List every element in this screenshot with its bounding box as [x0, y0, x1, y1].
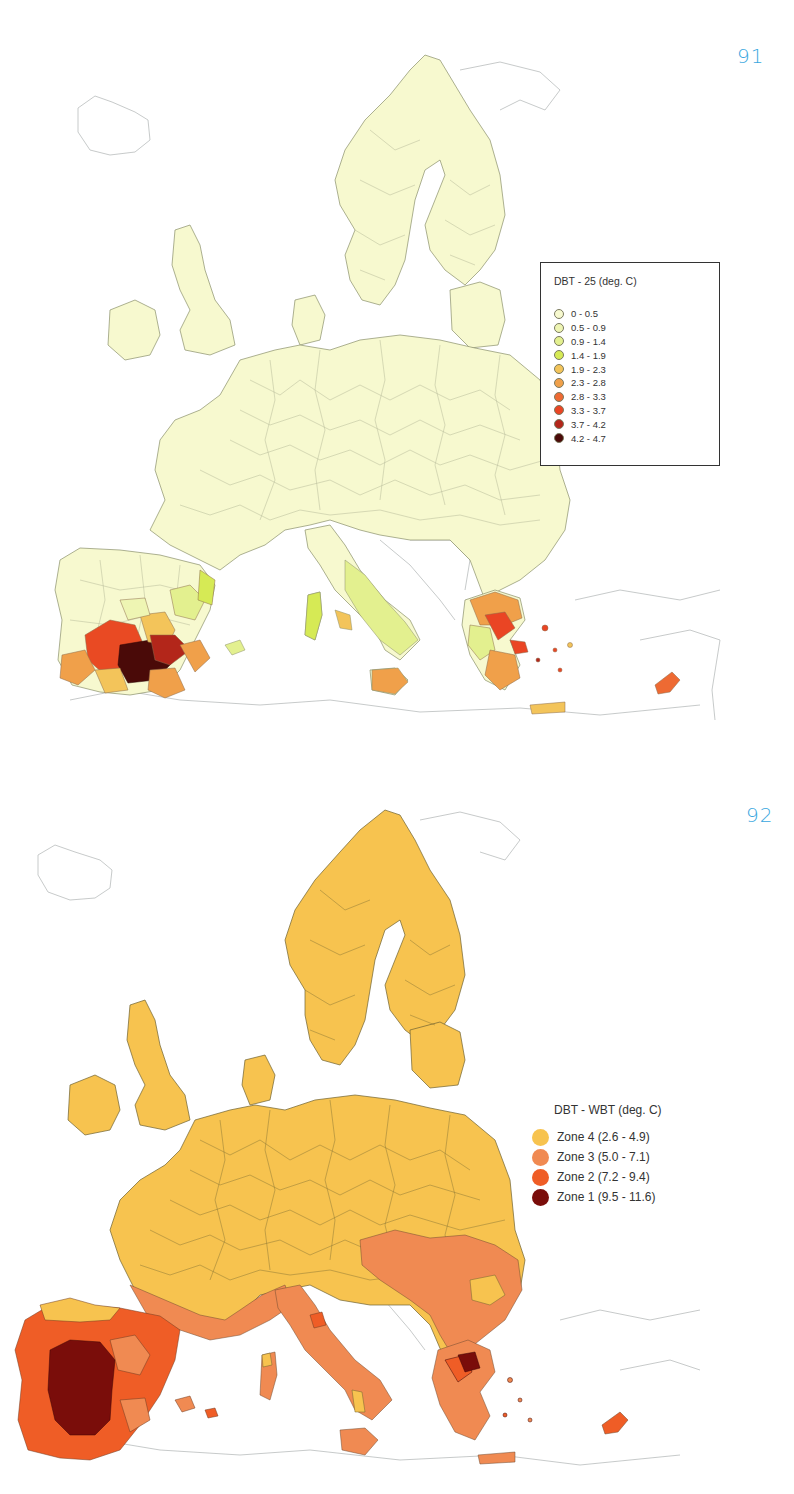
- legend-item: 3.3 - 3.7: [554, 404, 606, 418]
- legend-label: 0.5 - 0.9: [571, 322, 606, 333]
- legend-label: Zone 3 (5.0 - 7.1): [557, 1150, 650, 1164]
- legend-item: 3.7 - 4.2: [554, 417, 606, 431]
- legend-label: 1.4 - 1.9: [571, 350, 606, 361]
- map-dbt-25: DBT - 25 (deg. C) 0 - 0.5 0.5 - 0.9 0.9 …: [0, 0, 794, 740]
- legend-item: 0.9 - 1.4: [554, 335, 606, 349]
- legend-dbt-25: DBT - 25 (deg. C) 0 - 0.5 0.5 - 0.9 0.9 …: [540, 262, 720, 466]
- legend-item: Zone 4 (2.6 - 4.9): [532, 1127, 712, 1147]
- swatch-zone-4: [532, 1129, 549, 1146]
- legend-item: 1.9 - 2.3: [554, 362, 606, 376]
- legend-label: 2.8 - 3.3: [571, 391, 606, 402]
- swatch-8: [554, 419, 564, 429]
- swatch-6: [554, 392, 564, 402]
- map-dbt-wbt: DBT - WBT (deg. C) Zone 4 (2.6 - 4.9) Zo…: [0, 760, 794, 1494]
- swatch-5: [554, 378, 564, 388]
- swatch-1: [554, 323, 564, 333]
- legend-label: 3.7 - 4.2: [571, 419, 606, 430]
- swatch-3: [554, 350, 564, 360]
- legend-label: Zone 1 (9.5 - 11.6): [557, 1190, 656, 1204]
- swatch-zone-1: [532, 1189, 549, 1206]
- swatch-0: [554, 309, 564, 319]
- legend-item: Zone 3 (5.0 - 7.1): [532, 1147, 712, 1167]
- legend-label: 0.9 - 1.4: [571, 336, 606, 347]
- legend-item: 1.4 - 1.9: [554, 348, 606, 362]
- legend-item: Zone 1 (9.5 - 11.6): [532, 1187, 712, 1207]
- legend-item: 2.3 - 2.8: [554, 376, 606, 390]
- swatch-2: [554, 336, 564, 346]
- legend-label: Zone 4 (2.6 - 4.9): [557, 1130, 650, 1144]
- legend-label: 2.3 - 2.8: [571, 377, 606, 388]
- swatch-7: [554, 405, 564, 415]
- legend-label: 3.3 - 3.7: [571, 405, 606, 416]
- legend-item: 2.8 - 3.3: [554, 390, 606, 404]
- legend-dbt-wbt: DBT - WBT (deg. C) Zone 4 (2.6 - 4.9) Zo…: [532, 1103, 712, 1207]
- legend-title: DBT - 25 (deg. C): [554, 275, 637, 287]
- legend-item: Zone 2 (7.2 - 9.4): [532, 1167, 712, 1187]
- swatch-zone-2: [532, 1169, 549, 1186]
- legend-label: 0 - 0.5: [571, 308, 598, 319]
- legend-item: 0.5 - 0.9: [554, 321, 606, 335]
- legend-label: 1.9 - 2.3: [571, 364, 606, 375]
- legend-label: 4.2 - 4.7: [571, 433, 606, 444]
- swatch-4: [554, 364, 564, 374]
- legend-item: 4.2 - 4.7: [554, 431, 606, 445]
- swatch-zone-3: [532, 1149, 549, 1166]
- swatch-9: [554, 433, 564, 443]
- legend-label: Zone 2 (7.2 - 9.4): [557, 1170, 650, 1184]
- legend-item: 0 - 0.5: [554, 307, 606, 321]
- legend-title: DBT - WBT (deg. C): [554, 1103, 712, 1117]
